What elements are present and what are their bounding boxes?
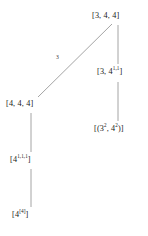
lattice-diagram: [3, 4, 4] [3, 41,1] [(32, 42)] [4, 4, 4]… — [0, 0, 148, 236]
node-right-low-base-post: )] — [118, 124, 124, 133]
node-left-mid: [41,1,1] — [10, 156, 31, 164]
node-left-top: [4, 4, 4] — [6, 100, 33, 108]
node-left-bottom-base-post: ] — [26, 210, 29, 219]
node-left-bottom: [4[4]] — [12, 211, 29, 219]
node-right-low-base-pre: [(3 — [94, 124, 104, 133]
node-right-low: [(32, 42)] — [94, 125, 124, 133]
node-left-mid-superscript: 1,1,1 — [17, 153, 28, 159]
edge-label-3: 3 — [56, 55, 59, 61]
node-right-mid-base-post: ] — [119, 67, 122, 76]
node-right-low-base-mid: , 4 — [107, 124, 116, 133]
edge-layer — [0, 0, 148, 236]
edge-root-to-left-top — [38, 24, 112, 97]
node-right-mid: [3, 41,1] — [97, 68, 122, 76]
node-left-top-label: [4, 4, 4] — [6, 99, 33, 108]
node-left-mid-base-post: ] — [28, 155, 31, 164]
node-right-mid-base-pre: [3, 4 — [97, 67, 113, 76]
node-root: [3, 4, 4] — [92, 12, 119, 20]
node-root-label: [3, 4, 4] — [92, 11, 119, 20]
